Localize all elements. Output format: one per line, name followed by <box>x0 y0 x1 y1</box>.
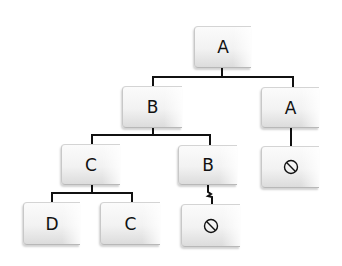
tree-node-null-mid[interactable] <box>181 204 240 247</box>
node-label: A <box>217 37 229 57</box>
edge-b-to-null-zigzag <box>204 185 216 205</box>
node-label: B <box>202 155 214 175</box>
tree-node-null-right[interactable] <box>261 146 319 188</box>
edge-b-to-b <box>209 134 211 145</box>
tree-node-b-mid[interactable]: B <box>178 145 237 185</box>
edge-c-to-c <box>131 192 133 202</box>
node-label: B <box>147 97 159 117</box>
edge-c-to-d <box>51 192 53 202</box>
node-label: A <box>285 98 297 118</box>
null-icon <box>203 218 219 234</box>
null-icon <box>283 159 299 175</box>
edge-root-bar <box>152 76 294 78</box>
tree-node-b[interactable]: B <box>122 86 182 128</box>
node-label: D <box>45 214 58 234</box>
edge-b-bar <box>91 134 211 136</box>
tree-node-c-bottom[interactable]: C <box>100 202 160 245</box>
tree-node-d[interactable]: D <box>23 202 80 245</box>
tree-node-a-right[interactable]: A <box>261 87 319 128</box>
node-label: C <box>85 155 97 175</box>
node-label: C <box>125 214 137 234</box>
tree-node-c[interactable]: C <box>61 144 120 185</box>
tree-node-root-a[interactable]: A <box>194 26 251 68</box>
edge-c-bar <box>51 192 133 194</box>
edge-a-to-null <box>290 128 292 146</box>
